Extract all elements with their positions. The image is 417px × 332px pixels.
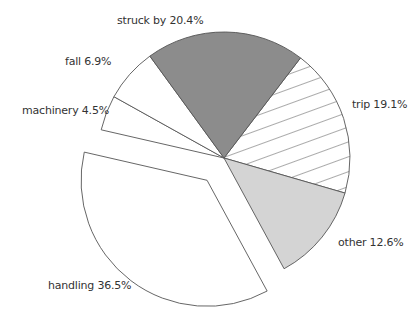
label-machinery: machinery 4.5% (22, 104, 109, 117)
label-struck-by: struck by 20.4% (117, 14, 203, 27)
label-fall: fall 6.9% (65, 55, 111, 68)
label-handling: handling 36.5% (48, 279, 131, 292)
label-other: other 12.6% (338, 236, 404, 249)
label-trip: trip 19.1% (352, 98, 407, 111)
